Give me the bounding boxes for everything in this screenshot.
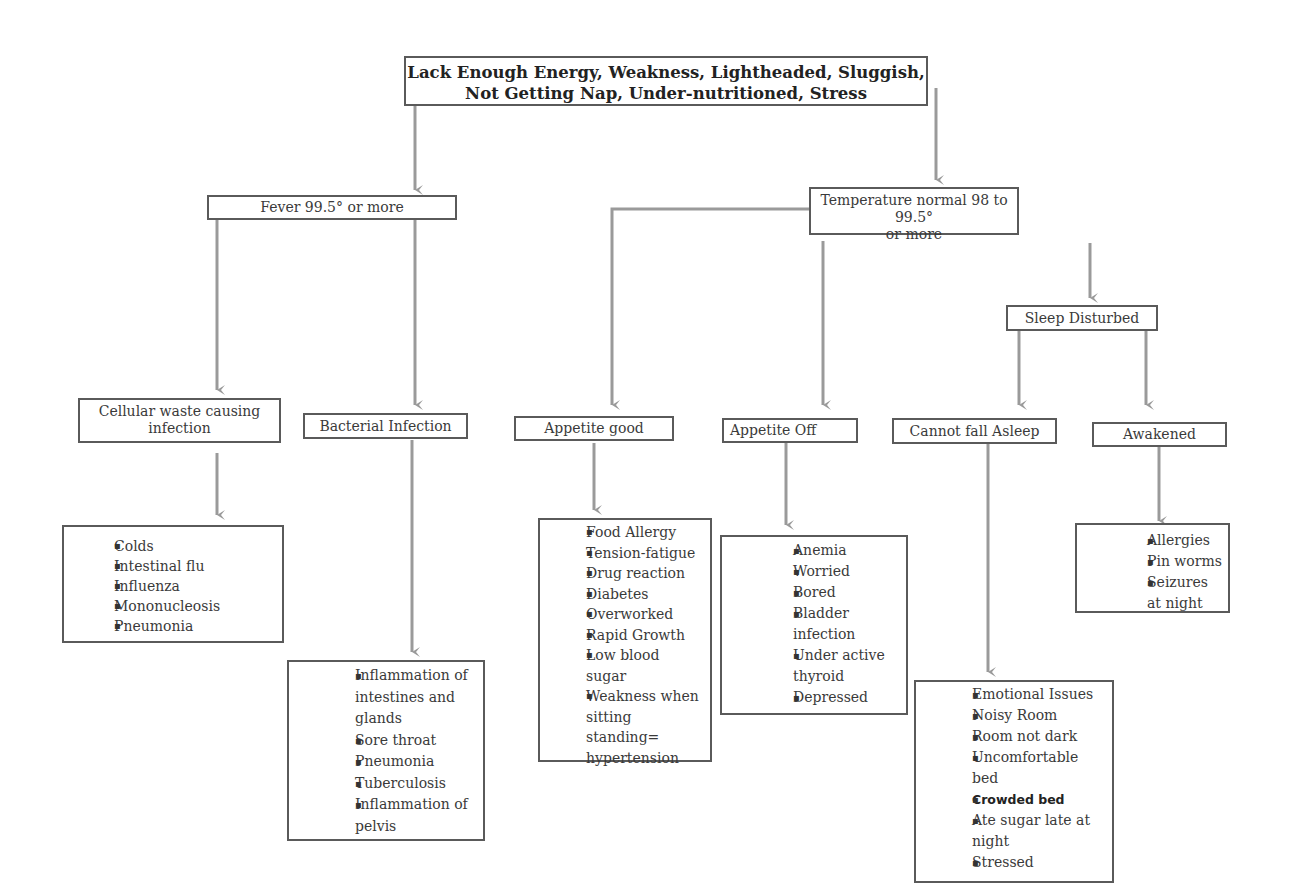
appetite-good-label: Appetite good bbox=[544, 420, 644, 436]
bacterial-causes-list: Inflammation of intestines and glands So… bbox=[287, 660, 485, 841]
temperature-normal-box: Temperature normal 98 to 99.5° or more bbox=[809, 187, 1019, 235]
list-item: Seizures at night bbox=[1119, 572, 1222, 614]
cannot-fall-asleep-box: Cannot fall Asleep bbox=[892, 418, 1057, 444]
list-item: Tuberculosis bbox=[325, 773, 477, 795]
list-item: Low blood sugar bbox=[558, 645, 704, 686]
list-item: Crowded bed bbox=[937, 789, 1106, 810]
list-item: Sore throat bbox=[325, 730, 477, 752]
root-symptoms-box: Lack Enough Energy, Weakness, Lightheade… bbox=[404, 56, 928, 106]
list-item: Food Allergy bbox=[558, 522, 704, 543]
list-item: Weakness when sitting standing= hyperten… bbox=[558, 686, 704, 768]
bacterial-infection-box: Bacterial Infection bbox=[303, 413, 468, 439]
cellular-waste-box: Cellular waste causing infection bbox=[78, 398, 281, 443]
list-item: Mononucleosis bbox=[86, 596, 282, 616]
bacterial-infection-label: Bacterial Infection bbox=[319, 418, 451, 434]
list-item: Under active thyroid bbox=[765, 645, 900, 687]
list-item: Colds bbox=[86, 536, 282, 556]
list-item: Worried bbox=[765, 561, 900, 582]
list-item: Uncomfortable bed bbox=[937, 747, 1106, 789]
list-item: Bored bbox=[765, 582, 900, 603]
list-item: Depressed bbox=[765, 687, 900, 708]
list-item: Pneumonia bbox=[325, 751, 477, 773]
sleep-disturbed-box: Sleep Disturbed bbox=[1006, 305, 1158, 331]
root-line-2: Not Getting Nap, Under-nutritioned, Stre… bbox=[406, 83, 926, 104]
sleep-disturbed-label: Sleep Disturbed bbox=[1025, 310, 1139, 326]
temperature-normal-line-1: Temperature normal 98 to 99.5° bbox=[811, 192, 1017, 226]
list-item: Drug reaction bbox=[558, 563, 704, 584]
list-item: Inflammation of pelvis bbox=[325, 794, 477, 837]
list-item: Inflammation of intestines and glands bbox=[325, 665, 477, 730]
temperature-normal-line-2: or more bbox=[811, 226, 1017, 243]
awakened-causes-list: Allergies Pin worms Seizures at night bbox=[1075, 523, 1230, 613]
list-item: Tension-fatigue bbox=[558, 543, 704, 564]
list-item: Influenza bbox=[86, 576, 282, 596]
appetite-good-box: Appetite good bbox=[514, 416, 674, 441]
appetite-off-box: Appetite Off bbox=[722, 418, 858, 443]
appetite-off-causes-list: Anemia Worried Bored Bladder infection U… bbox=[720, 535, 908, 715]
cellular-waste-line-1: Cellular waste causing bbox=[80, 403, 279, 420]
list-item: Anemia bbox=[765, 540, 900, 561]
cellular-causes-list: Colds Intestinal flu Influenza Mononucle… bbox=[62, 525, 284, 643]
cannot-fall-asleep-causes-list: Emotional Issues Noisy Room Room not dar… bbox=[914, 680, 1114, 883]
list-item: Stressed bbox=[937, 852, 1106, 873]
appetite-good-causes-list: Food Allergy Tension-fatigue Drug reacti… bbox=[538, 518, 712, 762]
list-item: Rapid Growth bbox=[558, 625, 704, 646]
root-line-1: Lack Enough Energy, Weakness, Lightheade… bbox=[406, 62, 926, 83]
fever-label: Fever 99.5° or more bbox=[260, 199, 403, 215]
fever-box: Fever 99.5° or more bbox=[207, 195, 457, 220]
list-item: Room not dark bbox=[937, 726, 1106, 747]
list-item: Allergies bbox=[1119, 530, 1222, 551]
list-item: Emotional Issues bbox=[937, 684, 1106, 705]
awakened-box: Awakened bbox=[1092, 422, 1227, 447]
list-item: Overworked bbox=[558, 604, 704, 625]
list-item: Noisy Room bbox=[937, 705, 1106, 726]
list-item: Intestinal flu bbox=[86, 556, 282, 576]
list-item: Ate sugar late at night bbox=[937, 810, 1106, 852]
cannot-fall-asleep-label: Cannot fall Asleep bbox=[910, 423, 1040, 439]
list-item: Pneumonia bbox=[86, 616, 282, 636]
list-item: Bladder infection bbox=[765, 603, 900, 645]
awakened-label: Awakened bbox=[1123, 426, 1196, 442]
list-item: Pin worms bbox=[1119, 551, 1222, 572]
list-item: Diabetes bbox=[558, 584, 704, 605]
cellular-waste-line-2: infection bbox=[80, 420, 279, 437]
appetite-off-label: Appetite Off bbox=[730, 422, 816, 438]
